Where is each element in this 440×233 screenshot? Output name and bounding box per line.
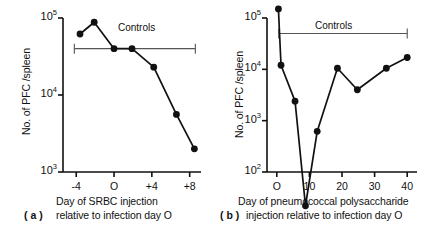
panel-tag-b: ( b ): [220, 209, 239, 221]
chart-panel-b: No. of PFC /spleen Controls Day of pneum…: [220, 0, 440, 233]
controls-annotation-a: Controls: [118, 22, 155, 33]
caption-line1-b: Day of pneumococcal polysaccharide: [238, 195, 409, 207]
y-tick-label: 102: [237, 164, 261, 176]
panel-tag-a: ( a ): [24, 209, 43, 221]
caption-line2-b: injection relative to infection day O: [246, 209, 402, 221]
y-tick-label: 105: [237, 10, 261, 22]
controls-annotation-b: Controls: [315, 20, 352, 31]
y-tick-label: 104: [237, 61, 261, 73]
chart-panel-a: No. of PFC /spleen Controls Day of SRBC …: [0, 0, 220, 233]
y-tick-label: 104: [33, 87, 57, 99]
y-axis-label-a: No. of PFC /spleen: [20, 48, 32, 135]
y-tick-label: 105: [33, 10, 57, 22]
x-tick-label: +4: [132, 180, 172, 192]
caption-line1-a: Day of SRBC injection: [56, 195, 158, 207]
y-tick-label: 103: [237, 113, 261, 125]
x-tick-label: O: [94, 180, 134, 192]
y-tick-label: 103: [33, 164, 57, 176]
figure-container: No. of PFC /spleen Controls Day of SRBC …: [0, 0, 440, 233]
x-tick-label: 40: [387, 180, 427, 192]
x-tick-label: +8: [170, 180, 210, 192]
caption-line2-a: relative to infection day O: [56, 209, 172, 221]
x-tick-label: -4: [56, 180, 96, 192]
